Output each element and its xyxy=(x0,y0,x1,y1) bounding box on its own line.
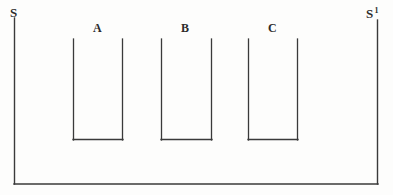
diagram-canvas: S S1 A B C xyxy=(0,0,393,195)
slot-b xyxy=(161,39,212,140)
slot-c xyxy=(248,39,298,140)
terminal-label-right: S1 xyxy=(366,7,379,20)
slot-label-b: B xyxy=(181,22,189,34)
slot-a xyxy=(73,39,123,140)
diagram-drawing xyxy=(0,0,393,195)
terminal-label-right-superscript: 1 xyxy=(374,6,378,15)
slot-label-c: C xyxy=(268,22,277,34)
outer-frame xyxy=(14,18,378,184)
terminal-label-right-text: S xyxy=(366,6,373,21)
terminal-label-left: S xyxy=(10,6,17,19)
terminal-label-left-text: S xyxy=(10,5,17,20)
slot-label-a: A xyxy=(93,22,102,34)
